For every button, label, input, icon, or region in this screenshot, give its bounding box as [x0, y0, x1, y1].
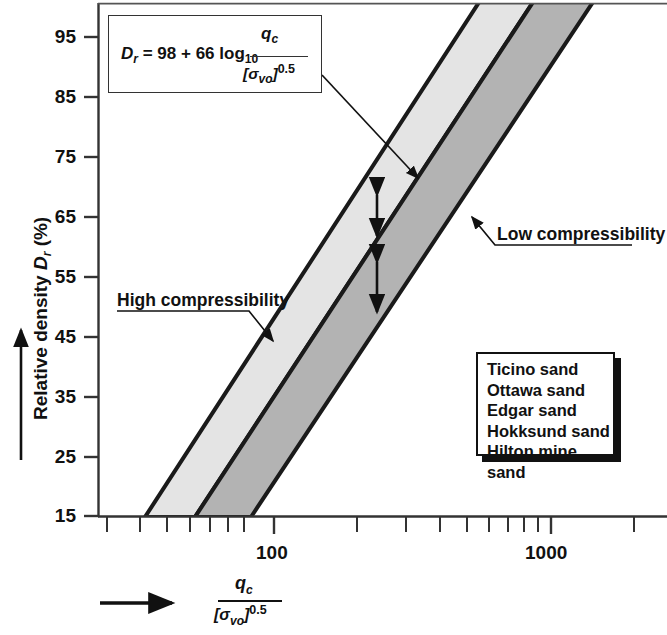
y-axis-ticks [84, 37, 99, 516]
figure-canvas: 95 85 75 65 55 45 35 25 15 100 1000 Rela… [0, 0, 667, 635]
formula-lhs: Dr = 98 + 66 log10 [121, 44, 258, 66]
chart-svg [0, 0, 667, 635]
legend-item-edgar: Edgar sand [487, 400, 613, 421]
y-tick-label-85: 85 [32, 86, 76, 108]
legend-item-ottawa: Ottawa sand [487, 380, 613, 401]
formula-rhs-prefix: 98 + 66 log [157, 44, 244, 63]
formula-numerator-symbol: q [261, 24, 271, 43]
formula-lhs-symbol: D [121, 44, 133, 63]
x-axis-numerator-symbol: q [235, 573, 246, 593]
x-axis-ticks [107, 517, 634, 534]
formula-fraction-bar [250, 56, 308, 57]
formula-equals: = [143, 44, 153, 63]
legend-box: Ticino sand Ottawa sand Edgar sand Hokks… [476, 352, 615, 456]
y-axis-title-symbol-sub: r [40, 252, 54, 257]
y-axis-title-units: (%) [30, 217, 51, 252]
legend-item-ticino: Ticino sand [487, 359, 613, 380]
formula-denom-exponent: 0.5 [278, 62, 295, 76]
x-axis-title-numerator: qc [235, 573, 253, 597]
y-tick-label-15: 15 [32, 505, 76, 527]
x-axis-denominator-sub: vo [230, 614, 244, 628]
high-compressibility-label: High compressibility [117, 290, 289, 311]
x-tick-label-1000: 1000 [525, 542, 567, 564]
x-tick-label-100: 100 [256, 542, 288, 564]
low-compressibility-label: Low compressibility [497, 224, 665, 245]
legend-item-hokksund: Hokksund sand [487, 421, 613, 442]
formula-lhs-sub: r [133, 52, 138, 66]
formula-denominator: [σvo]0.5 [243, 62, 295, 86]
formula-denom-sigma: σ [248, 65, 258, 82]
formula-numerator: qc [261, 24, 278, 46]
y-tick-label-95: 95 [32, 26, 76, 48]
y-tick-label-75: 75 [32, 146, 76, 168]
y-axis-title-symbol: D [30, 256, 51, 270]
y-axis-title-text: Relative density [30, 270, 51, 420]
formula-numerator-sub: c [271, 32, 278, 46]
x-axis-numerator-sub: c [246, 583, 253, 597]
y-axis-title: Relative density Dr (%) [30, 188, 55, 448]
x-axis-denominator-sigma: σ [219, 606, 230, 623]
formula-denom-sub: vo [258, 72, 272, 86]
x-axis-denominator-exponent: 0.5 [249, 603, 266, 617]
legend-item-hilton: Hilton mine sand [487, 441, 613, 482]
x-axis-title-denominator: [σvo]0.5 [214, 603, 267, 628]
formula-box: Dr = 98 + 66 log10 qc [σvo]0.5 [108, 15, 322, 93]
high-compressibility-leader-line [117, 311, 273, 341]
y-tick-label-25: 25 [32, 446, 76, 468]
